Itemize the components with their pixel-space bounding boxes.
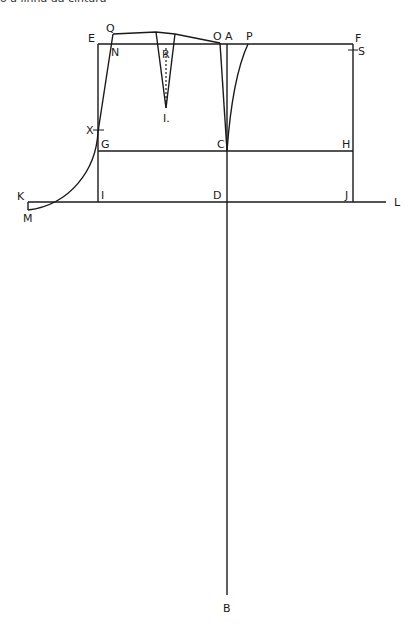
label-o: O [213,30,222,43]
label-k: K [17,190,25,203]
label-c: C [217,138,225,151]
label-l: L [394,196,401,209]
label-n: N [111,46,119,59]
label-e: E [88,32,95,45]
label-i-dot: I. [163,112,170,125]
label-p: P [246,30,253,43]
label-a: A [225,30,233,43]
dart-right [166,34,175,108]
line-o-c [220,43,227,151]
label-q: Q [106,22,115,35]
label-f: F [355,32,361,45]
pattern-diagram: E Q N R I. O A P F S X G C H K M I D J L… [0,0,416,628]
curve-p-c [227,44,248,151]
label-m: M [23,212,33,225]
label-i: I [101,189,104,202]
label-h: H [342,138,350,151]
label-j: J [344,189,348,202]
label-b: B [223,602,231,615]
label-x: X [86,124,94,137]
label-d: D [213,189,221,202]
shoulder-line [113,32,220,43]
label-s: S [358,45,365,58]
curve-x-m [28,132,98,210]
label-r: R [162,48,170,61]
label-g: G [101,138,110,151]
